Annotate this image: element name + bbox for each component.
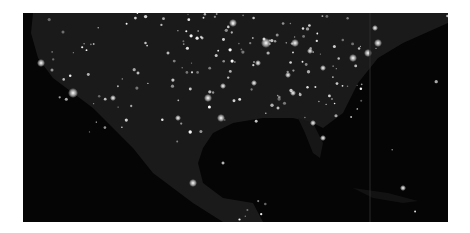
landmass-cuba — [353, 188, 418, 203]
night-map — [23, 13, 448, 222]
night-lights-satellite-photo — [23, 13, 448, 222]
